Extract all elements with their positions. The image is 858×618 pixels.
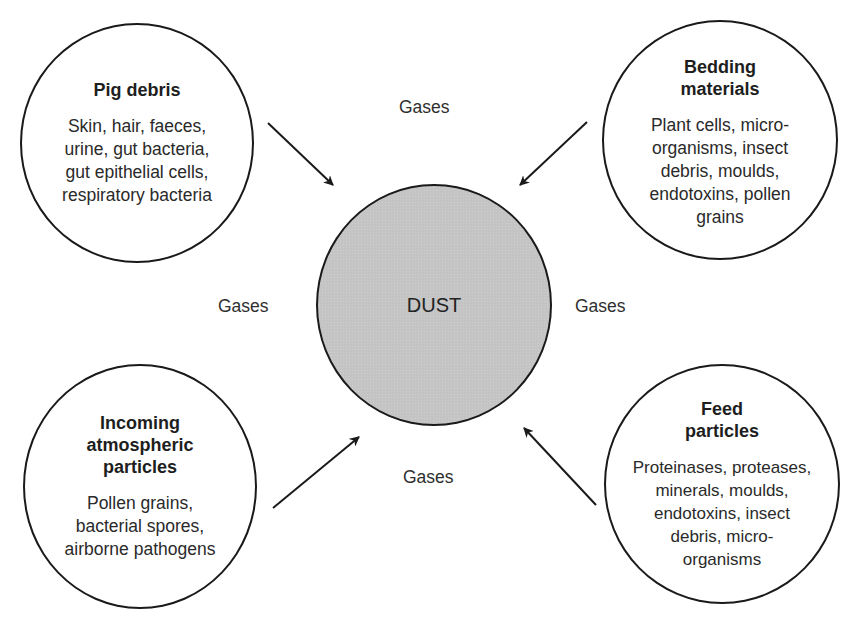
item-line: minerals, moulds, [633,479,812,502]
source-title: Incoming atmospheric particles [86,412,193,478]
item-line: debris, micro- [633,525,812,548]
arrow-pig-debris-to-dust [268,123,333,185]
item-line: airborne pathogens [65,538,216,561]
gases-label-left: Gases [218,296,269,317]
source-title: Bedding materials [680,56,759,100]
gases-label-top: Gases [399,97,450,118]
arrow-bedding-to-dust [520,122,587,185]
source-items: Plant cells, micro- organisms, insect de… [649,114,790,229]
title-line: particles [685,420,759,442]
source-circle-incoming-atmospheric-particles: Incoming atmospheric particles Pollen gr… [23,364,257,609]
title-line: Incoming [86,412,193,434]
dust-label: DUST [407,294,461,317]
title-line: particles [86,456,193,478]
arrow-feed-to-dust [524,428,596,505]
item-line: organisms [633,548,812,571]
item-line: gut epithelial cells, [62,161,212,184]
gases-label-bottom: Gases [403,467,454,488]
item-line: endotoxins, insect [633,502,812,525]
item-line: urine, gut bacteria, [62,138,212,161]
source-items: Proteinases, proteases, minerals, moulds… [633,456,812,571]
title-line: Pig debris [93,79,180,101]
item-line: bacterial spores, [65,515,216,538]
source-title: Feed particles [685,398,759,442]
item-line: Proteinases, proteases, [633,456,812,479]
item-line: Pollen grains, [65,492,216,515]
item-line: respiratory bacteria [62,184,212,207]
gases-label-right: Gases [575,296,626,317]
item-line: debris, moulds, [649,160,790,183]
item-line: Plant cells, micro- [649,114,790,137]
source-items: Skin, hair, faeces, urine, gut bacteria,… [62,115,212,207]
item-line: grains [649,206,790,229]
title-line: Bedding [680,56,759,78]
source-title: Pig debris [93,79,180,101]
title-line: materials [680,78,759,100]
title-line: atmospheric [86,434,193,456]
source-items: Pollen grains, bacterial spores, airborn… [65,492,216,561]
source-circle-feed-particles: Feed particles Proteinases, proteases, m… [604,364,840,604]
source-circle-pig-debris: Pig debris Skin, hair, faeces, urine, gu… [20,23,254,263]
title-line: Feed [685,398,759,420]
item-line: organisms, insect [649,137,790,160]
dust-center-circle: DUST [316,184,552,426]
arrow-atmospheric-to-dust [273,437,359,508]
item-line: endotoxins, pollen [649,183,790,206]
item-line: Skin, hair, faeces, [62,115,212,138]
source-circle-bedding-materials: Bedding materials Plant cells, micro- or… [602,20,838,260]
